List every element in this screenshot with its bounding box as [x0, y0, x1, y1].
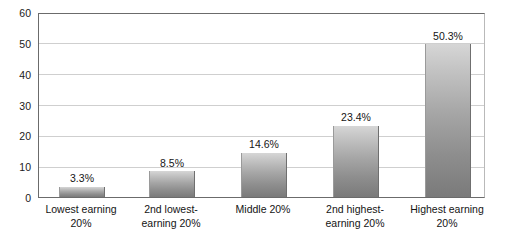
plot-area: 3.3% 8.5% 14.6% 23.4% 50.3%	[38, 13, 485, 198]
y-tick-label: 50	[19, 39, 31, 50]
x-axis-label-lowest-earning: Lowest earning 20%	[33, 202, 129, 230]
bar-2nd-lowest-earning[interactable]	[149, 171, 195, 197]
bar-slot: 50.3%	[425, 14, 471, 197]
x-axis-label-line2: 20%	[33, 216, 129, 230]
y-tick-label: 0	[25, 193, 31, 204]
y-tick-label: 60	[19, 8, 31, 19]
y-tick-label: 10	[19, 162, 31, 173]
x-axis-label-middle: Middle 20%	[217, 202, 309, 216]
bar-chart-figure: 60 50 40 30 20 10 0 3.3% 8.5% 14.6%	[0, 0, 507, 245]
x-axis-label-line1: Highest earning	[399, 202, 495, 216]
x-axis-label-line2: earning 20%	[125, 216, 217, 230]
bars-layer: 3.3% 8.5% 14.6% 23.4% 50.3%	[39, 14, 484, 197]
bar-middle[interactable]	[241, 153, 287, 197]
bar-value-label: 8.5%	[160, 158, 184, 169]
bar-value-label: 23.4%	[341, 112, 371, 123]
x-axis-label-line1: Lowest earning	[33, 202, 129, 216]
x-axis-label-2nd-highest-earning: 2nd highest- earning 20%	[309, 202, 401, 230]
x-axis-label-line2: 20%	[399, 216, 495, 230]
x-axis-label-line2: earning 20%	[309, 216, 401, 230]
y-tick-label: 40	[19, 69, 31, 80]
bar-2nd-highest-earning[interactable]	[333, 126, 379, 197]
bar-value-label: 50.3%	[433, 31, 463, 42]
bar-slot: 3.3%	[59, 14, 105, 197]
x-axis-label-2nd-lowest-earning: 2nd lowest- earning 20%	[125, 202, 217, 230]
bar-value-label: 14.6%	[249, 139, 279, 150]
bar-slot: 23.4%	[333, 14, 379, 197]
x-axis-label-line1: 2nd lowest-	[125, 202, 217, 216]
bar-slot: 14.6%	[241, 14, 287, 197]
bar-highest-earning[interactable]	[425, 44, 471, 197]
bar-lowest-earning[interactable]	[59, 187, 105, 197]
y-tick-label: 30	[19, 100, 31, 111]
x-axis: Lowest earning 20% 2nd lowest- earning 2…	[38, 202, 485, 245]
y-tick-label: 20	[19, 131, 31, 142]
x-axis-label-line1: 2nd highest-	[309, 202, 401, 216]
x-axis-label-line1: Middle 20%	[217, 202, 309, 216]
bar-value-label: 3.3%	[70, 173, 94, 184]
bar-slot: 8.5%	[149, 14, 195, 197]
x-axis-label-highest-earning: Highest earning 20%	[399, 202, 495, 230]
